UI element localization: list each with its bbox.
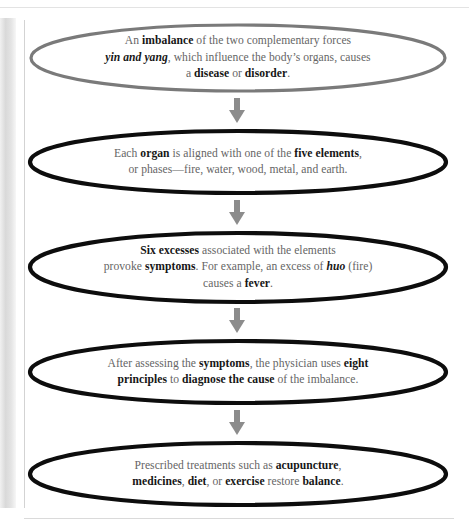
arrow-down-icon xyxy=(228,308,246,334)
flow-arrow xyxy=(228,98,246,124)
flowchart-node: After assessing the symptoms, the physic… xyxy=(26,338,450,406)
flowchart-node: Six excesses associated with the element… xyxy=(26,230,450,305)
node-text: After assessing the symptoms, the physic… xyxy=(26,356,450,389)
flowchart-node: Each organ is aligned with one of the fi… xyxy=(26,128,450,196)
bottom-horizontal-rule xyxy=(24,518,454,519)
flow-arrow xyxy=(228,200,246,226)
node-text: An imbalance of the two complementary fo… xyxy=(26,33,450,83)
flowchart-node: An imbalance of the two complementary fo… xyxy=(26,22,450,94)
node-text: Six excesses associated with the element… xyxy=(26,243,450,293)
flowchart-node: Prescribed treatments such as acupunctur… xyxy=(26,440,450,508)
node-text: Each organ is aligned with one of the fi… xyxy=(26,146,450,179)
gutter-vertical-rule xyxy=(24,20,25,508)
node-text: Prescribed treatments such as acupunctur… xyxy=(26,458,450,491)
arrow-down-icon xyxy=(228,410,246,436)
flow-arrow xyxy=(228,308,246,334)
arrow-down-icon xyxy=(228,98,246,124)
page-edge-shadow xyxy=(0,18,16,508)
scanned-page: An imbalance of the two complementary fo… xyxy=(0,0,469,526)
top-horizontal-rule xyxy=(0,7,469,8)
arrow-down-icon xyxy=(228,200,246,226)
flow-arrow xyxy=(228,410,246,436)
